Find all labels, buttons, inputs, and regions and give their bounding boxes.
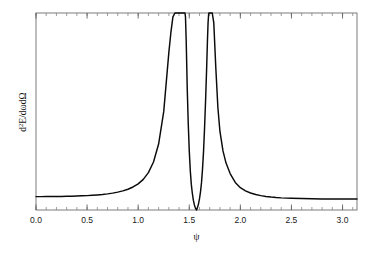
x-tick-label: 2.5 [286, 215, 298, 225]
x-tick-label: 0.5 [81, 215, 93, 225]
figure-panel: 0.00.51.01.52.02.53.0 ψ d2E/dωdΩ [0, 0, 369, 257]
x-tick-label: 2.0 [234, 215, 246, 225]
x-tick-label: 1.0 [132, 215, 144, 225]
x-tick-label: 0.0 [30, 215, 42, 225]
y-axis-title-trail: E/dωdΩ [18, 92, 28, 123]
plot-canvas: 0.00.51.01.52.02.53.0 ψ d2E/dωdΩ [0, 0, 369, 257]
x-tick-label: 3.0 [337, 215, 349, 225]
x-tick-label: 1.5 [183, 215, 195, 225]
x-axis-title: ψ [194, 232, 200, 242]
